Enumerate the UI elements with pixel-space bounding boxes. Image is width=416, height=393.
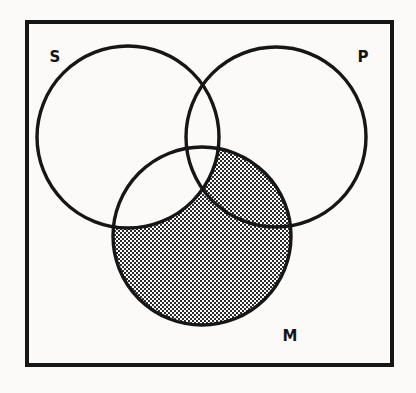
venn-diagram-canvas: S P M [0,0,416,393]
label-m: M [283,327,298,345]
label-p: P [358,48,369,66]
label-s: S [50,48,61,66]
venn-diagram-figure: S P M [0,0,416,393]
